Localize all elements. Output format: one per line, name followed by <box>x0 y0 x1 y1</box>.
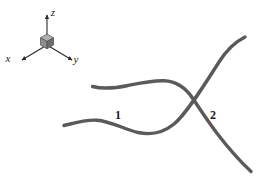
curves-group <box>64 37 251 172</box>
diagram-figure: 1 2 z x y <box>0 0 265 185</box>
curve-two-path <box>64 37 245 134</box>
x-axis-line <box>22 45 47 60</box>
origin-cube <box>41 34 54 49</box>
curve-one-label: 1 <box>115 108 121 122</box>
figure-canvas: 1 2 z x y <box>0 0 265 185</box>
y-axis-line <box>47 45 72 60</box>
x-axis-label: x <box>5 52 11 64</box>
y-axis-label: y <box>73 53 79 65</box>
coordinate-axis-triad: z x y <box>5 6 79 65</box>
z-axis-label: z <box>50 6 56 18</box>
curve-two-label: 2 <box>210 108 216 122</box>
